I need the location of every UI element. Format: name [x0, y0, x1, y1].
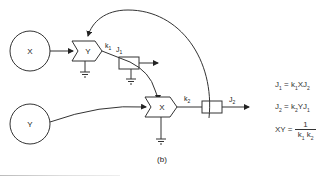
- j2-label: J2: [229, 96, 236, 105]
- source-x-node: X: [10, 31, 50, 71]
- k1-label: k1: [105, 42, 112, 51]
- j2-flux-box: [202, 101, 222, 113]
- fraction: 1 k1 k2: [295, 120, 317, 141]
- source-y-label: Y: [27, 120, 33, 129]
- equation-xy: XY = 1 k1 k2: [275, 120, 316, 141]
- equation-j1: J1 = k1XJ2: [275, 80, 310, 91]
- figure-caption: (b): [157, 155, 167, 164]
- enzyme-x-node: X: [145, 97, 177, 117]
- source-x-label: X: [27, 47, 33, 56]
- ground-icon: [80, 61, 90, 77]
- enzyme-y-node: Y: [72, 41, 102, 61]
- j1-label: J1: [116, 46, 123, 55]
- source-y-node: Y: [10, 104, 50, 144]
- k2-label: k2: [184, 95, 191, 104]
- y-to-enzyme-x-arrow: [50, 107, 146, 122]
- equation-j2: J2 = k2YJ1: [275, 102, 310, 113]
- ground-icon: [156, 117, 166, 144]
- ground-icon: [126, 69, 136, 84]
- enzyme-x-label: X: [159, 103, 165, 112]
- enzyme-y-label: Y: [85, 47, 91, 56]
- scan-artifact-line: [0, 175, 120, 176]
